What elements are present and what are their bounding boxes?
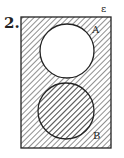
universal-label: ε xyxy=(101,3,106,14)
set-b-label: B xyxy=(93,130,100,141)
set-b-circle xyxy=(38,83,94,139)
venn-diagram: ε A B xyxy=(0,0,124,158)
set-a-circle xyxy=(40,24,94,78)
set-a-label: A xyxy=(91,24,100,35)
